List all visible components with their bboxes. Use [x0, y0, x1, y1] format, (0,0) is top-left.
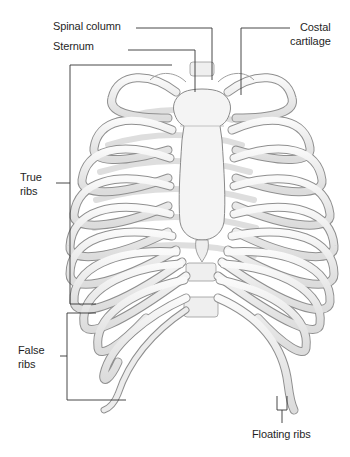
label-true-ribs-line2: ribs: [20, 185, 37, 198]
rib-cage-diagram: Spinal column Sternum Costal cartilage T…: [0, 0, 350, 457]
label-true-ribs-line1: True: [20, 171, 42, 184]
rib-cage-illustration: [0, 0, 350, 457]
label-spinal-column: Spinal column: [53, 20, 121, 33]
label-floating-ribs: Floating ribs: [252, 428, 311, 441]
label-false-ribs-line1: False: [18, 344, 44, 357]
sternum-bone: [173, 89, 230, 262]
label-sternum: Sternum: [53, 40, 94, 53]
label-costal-cartilage-line1: Costal: [300, 21, 331, 34]
ribs-right: [218, 78, 334, 410]
label-false-ribs-line2: ribs: [18, 358, 35, 371]
ribs-left: [70, 78, 186, 380]
label-costal-cartilage-line2: cartilage: [290, 35, 331, 48]
